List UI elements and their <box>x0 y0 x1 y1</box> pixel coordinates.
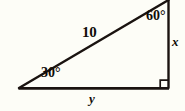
angle-label-top: 60° <box>146 9 166 23</box>
horizontal-leg-label: y <box>89 92 95 105</box>
angle-label-left: 30° <box>41 66 61 80</box>
hypotenuse-label: 10 <box>82 25 96 40</box>
vertical-leg-label: x <box>172 35 179 48</box>
triangle-figure: 10 60° 30° x y <box>0 0 185 111</box>
